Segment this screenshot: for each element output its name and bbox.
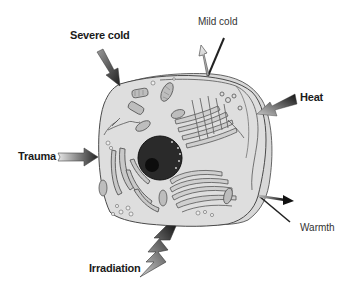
cell (99, 74, 272, 227)
mitochondrion (99, 180, 107, 196)
label-trauma: Trauma (18, 151, 56, 162)
mild-cold-arrow (199, 38, 224, 76)
label-irradiation: Irradiation (89, 263, 141, 274)
label-mild-cold: Mild cold (198, 17, 237, 27)
label-warmth: Warmth (300, 223, 335, 233)
label-severe-cold: Severe cold (70, 30, 130, 41)
nucleolus (145, 158, 159, 172)
trauma-arrow (58, 148, 98, 166)
diagram-canvas (0, 0, 349, 295)
irradiation-lightning-icon (140, 226, 176, 277)
severe-cold-arrow (97, 49, 120, 86)
mitochondrion (159, 190, 167, 206)
nucleus (138, 136, 182, 180)
cell-injury-diagram: Severe cold Mild cold Heat Trauma Warmth… (0, 0, 349, 295)
label-heat: Heat (300, 92, 323, 103)
